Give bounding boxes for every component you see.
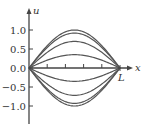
x-end-label: L [117, 72, 125, 83]
y-tick-label: 1.0 [10, 25, 26, 36]
y-tick-label: −0.5 [2, 82, 26, 93]
y-tick-label: −1.0 [2, 101, 26, 112]
y-tick-label: 0.0 [10, 63, 26, 74]
y-axis-arrow-icon [27, 8, 32, 14]
wave-curve-5 [29, 68, 120, 81]
x-axis-label: x [135, 62, 141, 73]
y-tick-label: 0.5 [10, 44, 26, 55]
x-axis-arrow-icon [127, 66, 133, 71]
y-ticks: 1.00.50.0−0.5−1.0 [2, 25, 33, 112]
y-axis-label: u [33, 5, 39, 16]
standing-wave-chart: 1.00.50.0−0.5−1.0 u x L [0, 0, 143, 131]
